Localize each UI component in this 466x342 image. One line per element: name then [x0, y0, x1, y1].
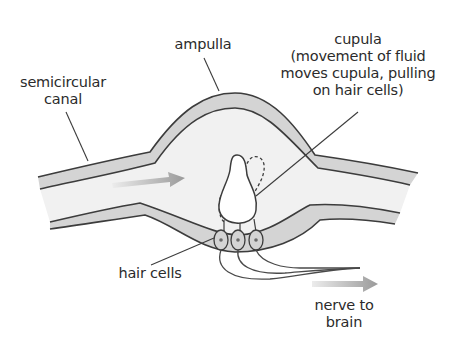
label-line: semicircular — [8, 74, 118, 91]
label-ampulla: ampulla — [168, 36, 238, 53]
label-line: (movement of fluid — [280, 48, 436, 65]
canal-leader — [66, 112, 88, 161]
hair-cells — [214, 230, 263, 250]
label-line: moves cupula, pulling — [280, 65, 436, 82]
ampulla-leader — [204, 58, 219, 91]
nerve-fibers — [220, 250, 360, 279]
label-semicircular-canal: semicircular canal — [8, 74, 118, 108]
label-line: brain — [305, 314, 383, 331]
label-line: on hair cells) — [280, 82, 436, 99]
label-line: cupula — [280, 31, 436, 48]
label-line: canal — [8, 91, 118, 108]
nerve-signal-arrow — [312, 276, 378, 292]
label-line: ampulla — [168, 36, 238, 53]
label-hair-cells: hair cells — [110, 265, 190, 282]
label-line: nerve to — [305, 297, 383, 314]
label-nerve-to-brain: nerve to brain — [305, 297, 383, 331]
hair-cells-leader — [151, 238, 214, 265]
label-cupula: cupula (movement of fluid moves cupula, … — [280, 31, 436, 99]
label-line: hair cells — [110, 265, 190, 282]
